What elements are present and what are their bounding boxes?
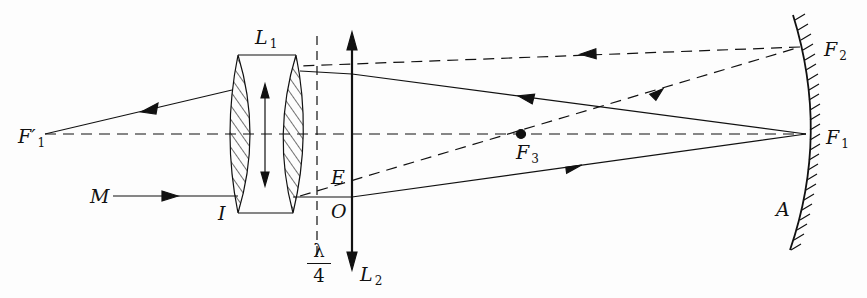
label-f1-prime: F′1 xyxy=(18,127,45,149)
label-e: E xyxy=(331,168,345,187)
label-m: M xyxy=(90,187,109,206)
ray-from-f1 xyxy=(300,71,806,134)
label-o: O xyxy=(331,202,347,221)
label-l2: L2 xyxy=(360,265,382,287)
label-f3: F3 xyxy=(516,143,539,165)
label-a: A xyxy=(776,200,790,219)
focus-f3-dot xyxy=(517,130,526,139)
lens-l1-left-element xyxy=(230,55,250,213)
dashed-ray-f2-return xyxy=(300,47,800,66)
optics-diagram: L1 L2 F1 F2 F3 F′1 M I E O A λ 4 xyxy=(0,0,867,298)
label-f2: F2 xyxy=(824,40,847,62)
ray-to-f1 xyxy=(293,134,806,197)
label-quarter-wave: λ 4 xyxy=(307,242,331,285)
label-f1: F1 xyxy=(826,128,849,150)
lens-l1-right-element xyxy=(283,55,303,213)
label-i: I xyxy=(218,204,226,223)
dashed-ray-e-f2 xyxy=(300,47,800,196)
ray-to-f1prime xyxy=(45,90,232,134)
diagram-drawing xyxy=(0,0,867,298)
label-l1: L1 xyxy=(255,28,277,50)
